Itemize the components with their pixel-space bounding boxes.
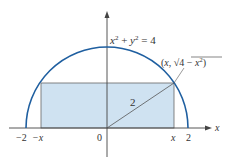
point-label: (x, √4 − x2) xyxy=(161,56,206,69)
radius-label: 2 xyxy=(130,96,136,108)
diagram-svg: x2 + y2 = 4 (x, √4 − x2) 2 −2 −x 0 x 2 x xyxy=(0,0,233,162)
tick-label-zero: 0 xyxy=(97,132,102,143)
x-axis-label: x xyxy=(214,122,220,133)
tick-label-pos-x: x xyxy=(170,132,176,143)
equation-label: x2 + y2 = 4 xyxy=(109,34,156,46)
point-leader-line xyxy=(174,68,184,83)
tick-label-neg-x: −x xyxy=(32,132,44,143)
inscribed-rectangle xyxy=(41,83,174,128)
diagram-canvas: x2 + y2 = 4 (x, √4 − x2) 2 −2 −x 0 x 2 x xyxy=(0,0,233,162)
x-axis-arrow-icon xyxy=(205,126,212,131)
y-axis-arrow-icon xyxy=(105,11,110,18)
tick-label-pos-two: 2 xyxy=(186,132,191,143)
tick-label-neg-two: −2 xyxy=(16,132,27,143)
